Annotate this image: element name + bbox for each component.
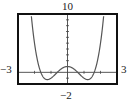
plot-area — [0, 0, 132, 105]
axes — [18, 14, 117, 84]
